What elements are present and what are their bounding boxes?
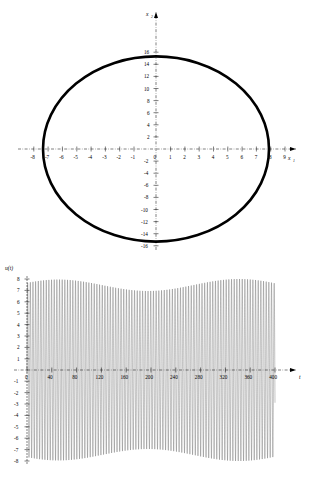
time-yticklabel: -6	[14, 435, 19, 441]
phase-xticklabel: -5	[74, 154, 79, 160]
phase-xlabel-subscript: 1	[293, 159, 295, 163]
time-xticklabel: 200	[145, 374, 153, 380]
time-yticklabel: 6	[17, 299, 20, 305]
phase-xticklabel: -7	[45, 154, 50, 160]
time-series-svg: u(t) t 0 40 80 120 160 200 240 280	[0, 262, 311, 477]
time-yticklabel: -7	[14, 447, 19, 453]
phase-yticklabel: 8	[147, 98, 150, 104]
phase-ylabel-subscript: 2	[151, 15, 153, 19]
phase-yticklabel: -4	[144, 170, 149, 176]
phase-yticklabel: -6	[144, 182, 149, 188]
time-xticklabel: 120	[96, 374, 104, 380]
phase-x-axis-arrow	[290, 147, 296, 151]
phase-xticklabel: -1	[131, 154, 136, 160]
phase-yticklabel: 6	[147, 110, 150, 116]
time-yticklabel: -4	[14, 412, 19, 418]
time-yticklabel: -3	[14, 401, 19, 407]
phase-yticklabel: 4	[147, 122, 150, 128]
phase-yticklabel: -14	[141, 231, 148, 237]
time-yticklabel: 7	[17, 287, 20, 293]
phase-xticklabel: 9	[283, 154, 286, 160]
phase-yticklabel: -2	[144, 158, 149, 164]
phase-yticklabel: -16	[141, 243, 148, 249]
phase-xticklabel: 4	[212, 154, 215, 160]
phase-xticklabel: 5	[226, 154, 229, 160]
phase-yticklabel: 14	[144, 61, 150, 67]
time-series-figure: u(t) t 0 40 80 120 160 200 240 280	[0, 262, 311, 477]
phase-yticklabel: -10	[141, 207, 148, 213]
phase-xticklabel: 0	[153, 154, 156, 160]
phase-yticklabel: -8	[144, 194, 149, 200]
time-yticklabel: -5	[14, 424, 19, 430]
figure-page: x 1 x 2 -8 -7 -6 -5 -4 -3 -2 -1	[0, 0, 311, 477]
time-yticklabel: 8	[17, 276, 20, 282]
time-xticklabel: 80	[72, 374, 78, 380]
phase-yticklabel: 12	[144, 73, 150, 79]
time-xticklabel: 400	[269, 374, 277, 380]
phase-xticklabel: -2	[117, 154, 122, 160]
time-yticklabel: -2	[14, 390, 19, 396]
phase-xticklabel: 3	[198, 154, 201, 160]
phase-yticklabel: 16	[144, 49, 150, 55]
phase-portrait-figure: x 1 x 2 -8 -7 -6 -5 -4 -3 -2 -1	[0, 0, 311, 262]
time-yticklabel: 2	[17, 344, 20, 350]
phase-yticklabel: 2	[147, 134, 150, 140]
time-yticklabel: 4	[17, 322, 20, 328]
time-x-axis-arrow	[290, 368, 296, 372]
time-ylabel: u(t)	[5, 265, 13, 272]
phase-xticklabel: -8	[31, 154, 36, 160]
time-xticklabel: 320	[220, 374, 228, 380]
phase-yticklabel: -12	[141, 219, 148, 225]
phase-xticklabel: -3	[102, 154, 107, 160]
phase-y-axis-arrow	[154, 12, 158, 18]
time-yticklabel: 1	[17, 356, 20, 362]
time-xticklabel: 0	[25, 374, 28, 380]
phase-yticklabel: 10	[144, 86, 150, 92]
phase-xticklabel: 6	[240, 154, 243, 160]
phase-xticklabel: 7	[255, 154, 258, 160]
time-yticklabel: -8	[14, 458, 19, 464]
phase-xticklabel: 2	[183, 154, 186, 160]
time-yticklabel: 5	[17, 310, 20, 316]
phase-xticklabel: -4	[88, 154, 93, 160]
phase-portrait-svg: x 1 x 2 -8 -7 -6 -5 -4 -3 -2 -1	[0, 0, 311, 262]
phase-ylabel: x	[145, 11, 149, 17]
phase-x-ticks: -8 -7 -6 -5 -4 -3 -2 -1 0 1 2	[31, 147, 287, 161]
time-xlabel: t	[299, 374, 301, 380]
time-yticklabel: 3	[17, 333, 20, 339]
phase-xticklabel: -6	[59, 154, 64, 160]
phase-xticklabel: 1	[169, 154, 172, 160]
time-yticklabel: -1	[14, 378, 19, 384]
phase-xlabel: x	[287, 155, 291, 161]
